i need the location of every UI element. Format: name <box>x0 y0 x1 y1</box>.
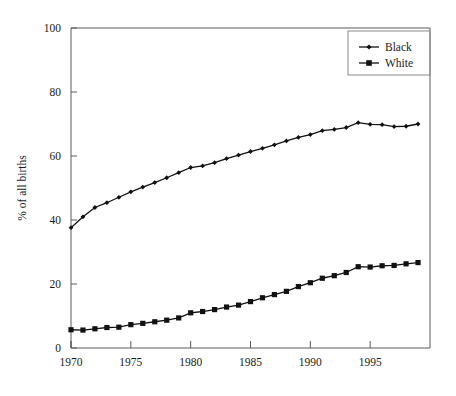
data-point-marker <box>200 309 205 314</box>
y-axis-title: % of all births <box>16 155 28 221</box>
y-axis-tick-labels: 020406080100 <box>44 22 62 354</box>
data-point-marker <box>320 276 325 281</box>
data-point-marker <box>212 307 217 312</box>
y-tick-label: 20 <box>50 278 62 290</box>
data-point-marker <box>224 304 229 309</box>
data-point-marker <box>344 125 349 130</box>
x-tick-label: 1990 <box>299 356 322 368</box>
x-tick-label: 1985 <box>239 356 262 368</box>
data-point-marker <box>332 127 337 132</box>
data-point-marker <box>356 264 361 269</box>
y-tick-label: 100 <box>44 22 62 34</box>
data-point-marker <box>260 146 265 151</box>
data-point-marker <box>236 303 241 308</box>
data-point-marker <box>260 295 265 300</box>
data-point-marker <box>212 160 217 165</box>
data-point-marker <box>176 170 181 175</box>
chart-legend: BlackWhite <box>348 31 430 75</box>
data-point-marker <box>368 264 373 269</box>
data-point-marker <box>105 200 110 205</box>
data-point-marker <box>104 325 109 330</box>
data-point-marker <box>284 139 289 144</box>
data-point-marker <box>248 299 253 304</box>
data-point-marker <box>356 120 361 125</box>
data-point-marker <box>140 321 145 326</box>
data-point-marker <box>224 156 229 161</box>
data-point-marker <box>164 175 169 180</box>
data-point-marker <box>416 122 421 127</box>
data-point-marker <box>380 263 385 268</box>
legend-items: BlackWhite <box>359 41 413 69</box>
data-point-marker <box>296 135 301 140</box>
y-tick-label: 40 <box>50 214 62 226</box>
x-axis-tick-labels: 197019751980198519901995 <box>60 356 382 368</box>
x-axis-ticks <box>71 341 370 348</box>
series-line-white <box>71 263 418 331</box>
data-point-marker <box>188 310 193 315</box>
data-point-marker <box>366 44 371 49</box>
legend-item-white: White <box>359 57 413 69</box>
data-point-marker <box>80 327 85 332</box>
data-point-marker <box>308 132 313 137</box>
data-point-marker <box>284 289 289 294</box>
x-tick-label: 1995 <box>359 356 382 368</box>
data-point-marker <box>332 273 337 278</box>
data-point-marker <box>128 189 133 194</box>
data-point-marker <box>164 318 169 323</box>
y-axis-ticks <box>71 28 77 348</box>
x-tick-label: 1980 <box>179 356 202 368</box>
data-series-group <box>68 120 420 332</box>
data-point-marker <box>344 270 349 275</box>
data-point-marker <box>415 260 420 265</box>
data-point-marker <box>403 261 408 266</box>
data-point-marker <box>140 185 145 190</box>
legend-label: Black <box>385 41 412 53</box>
data-point-marker <box>92 326 97 331</box>
data-point-marker <box>116 195 121 200</box>
data-point-marker <box>116 325 121 330</box>
series-line-black <box>71 123 418 228</box>
data-point-marker <box>188 165 193 170</box>
data-point-marker <box>380 122 385 127</box>
data-point-marker <box>392 124 397 129</box>
data-point-marker <box>248 149 253 154</box>
data-point-marker <box>320 128 325 133</box>
data-point-marker <box>236 153 241 158</box>
data-point-marker <box>272 142 277 147</box>
data-point-marker <box>152 319 157 324</box>
data-point-marker <box>68 327 73 332</box>
y-tick-label: 60 <box>50 150 62 162</box>
data-point-marker <box>272 292 277 297</box>
data-point-marker <box>176 315 181 320</box>
data-point-marker <box>366 60 372 66</box>
data-point-marker <box>296 284 301 289</box>
data-point-marker <box>128 322 133 327</box>
data-point-marker <box>368 122 373 127</box>
x-tick-label: 1975 <box>119 356 142 368</box>
y-tick-label: 0 <box>55 342 61 354</box>
x-tick-label: 1970 <box>60 356 83 368</box>
line-chart: 020406080100 197019751980198519901995 % … <box>0 0 456 396</box>
series-white <box>68 260 420 333</box>
y-tick-label: 80 <box>50 86 62 98</box>
legend-label: White <box>385 57 413 69</box>
legend-item-black: Black <box>359 41 412 53</box>
data-point-marker <box>392 263 397 268</box>
data-point-marker <box>404 124 409 129</box>
data-point-marker <box>308 280 313 285</box>
data-point-marker <box>152 180 157 185</box>
chart-figure: 020406080100 197019751980198519901995 % … <box>0 0 456 396</box>
series-black <box>69 120 421 230</box>
data-point-marker <box>200 164 205 169</box>
